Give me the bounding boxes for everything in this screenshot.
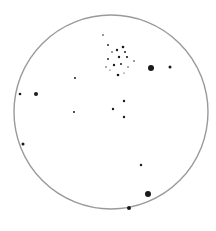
star [34, 92, 38, 96]
star [148, 65, 154, 71]
star [123, 116, 125, 118]
star [124, 51, 126, 53]
star [127, 206, 131, 210]
star [111, 51, 113, 53]
star [169, 66, 172, 69]
star [145, 191, 151, 197]
star [127, 66, 128, 67]
star-group [19, 34, 172, 210]
star [107, 58, 109, 60]
star [19, 93, 22, 96]
star [105, 66, 106, 67]
star [113, 64, 115, 66]
star [109, 69, 110, 70]
eyepiece-field [0, 0, 216, 231]
star [120, 63, 122, 65]
field-of-view-circle [14, 15, 208, 209]
star [122, 46, 125, 49]
star [117, 74, 120, 77]
star [107, 44, 109, 46]
star [73, 111, 75, 113]
star [102, 34, 104, 36]
star [123, 72, 124, 73]
star [126, 56, 128, 58]
star [140, 164, 142, 166]
star [133, 60, 135, 62]
star [22, 143, 25, 146]
star [74, 77, 76, 79]
star [118, 56, 120, 58]
star [123, 100, 125, 102]
star [112, 108, 114, 110]
star [116, 49, 118, 51]
